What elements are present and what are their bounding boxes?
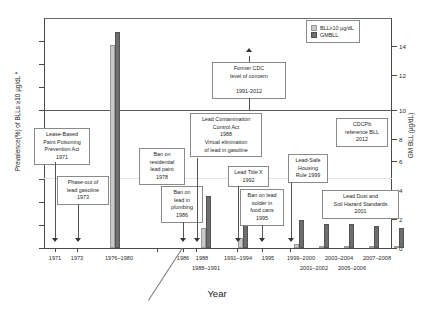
bar-dark-2005-2006 — [374, 226, 379, 248]
bar-dark-1999-2000 — [299, 220, 304, 248]
y-tick-right-14: 14 — [399, 44, 406, 50]
annotation-lead-contamination-control-act: Lead Contamination Control Act 1988 Virt… — [190, 113, 262, 157]
annotation-stem-1999 — [291, 182, 292, 240]
annotation-stem-cdc — [249, 56, 250, 62]
y-tick-right-8: 8 — [399, 137, 402, 143]
annotation-ban-residential-lead-paint: Ban on residential lead paint 1978 — [139, 148, 185, 185]
x-axis-line — [44, 248, 392, 249]
annotation-phase-out-lead-gasoline: Phase-out of lead gasoline 1973 — [57, 176, 109, 205]
annotation-lead-safe-housing-rule: Lead-Safe Housing Rule 1999 — [288, 154, 328, 183]
arrow-head-cdc-up-icon — [246, 48, 252, 52]
bar-dark-2007-2008 — [399, 228, 404, 248]
x-tick-label-2005-2006: 2005–2006 — [327, 266, 377, 272]
arrow-head-1995-icon — [259, 238, 265, 242]
arrow-head-1971-icon — [52, 238, 58, 242]
y-axis-left-title: Prevalence(%) of BLLs ≥10 µg/dL * — [14, 47, 21, 197]
bar-dark-2001-2002 — [324, 224, 329, 248]
annotation-ban-lead-solder-food-cans: Ban on lead solder in food cans 1995 — [240, 189, 284, 226]
legend-item-bll: BLL≥10 µg/dL — [311, 25, 354, 31]
y-tick-right-2: 2 — [399, 217, 402, 223]
y-tick-right-6: 6 — [399, 159, 402, 165]
annotation-lead-title-x: Lead Title X 1992 — [228, 166, 269, 187]
y-tick-right-4: 4 — [399, 188, 402, 194]
annotation-lead-dust-soil-hazard-standards: Lead Dust and Soil Hazard Standards 2001 — [322, 190, 399, 219]
legend: BLL≥10 µg/dL GMBLL — [306, 20, 360, 43]
annotation-former-cdc-level-of-concern: Former CDC level of concern 1991-2012 — [212, 62, 286, 99]
x-tick-label-1988: 1988 — [189, 256, 215, 262]
x-tick-label-2007-2008: 2007–2008 — [352, 256, 402, 262]
arrow-head-1986-icon — [180, 238, 186, 242]
x-tick-label-1988-1991: 1988–1991 — [181, 266, 231, 272]
legend-swatch-bll-icon — [311, 25, 317, 31]
arrow-head-1973-icon — [75, 238, 81, 242]
bar-dark-2003-2004 — [349, 224, 354, 248]
chart-figure: 0 10 20 30 40 50 60 70 80 90 0 2 4 6 8 1… — [0, 0, 434, 314]
y-axis-right-title: GM BLL (µg/dL) — [407, 81, 414, 191]
annotation-stem-1971 — [55, 162, 56, 240]
arrow-head-1988-icon — [194, 238, 200, 242]
x-axis-title: Year — [0, 288, 434, 299]
annotation-lease-based-paint: Lease-Based Paint Poisoning Prevention A… — [34, 128, 90, 165]
annotation-stem-1992 — [238, 186, 239, 240]
legend-label-gmbll: GMBLL — [320, 32, 338, 38]
y-tick-right-12: 12 — [399, 73, 406, 79]
x-tick-label-1973: 1973 — [64, 256, 90, 262]
legend-item-gmbll: GMBLL — [311, 32, 354, 38]
arrow-head-1999-icon — [288, 238, 294, 242]
x-tick-label-1976-1980: 1976–1980 — [94, 256, 144, 262]
annotation-stem-1988 — [197, 158, 198, 240]
bar-dark-1988-1991 — [206, 196, 211, 248]
legend-swatch-gmbll-icon — [311, 32, 317, 38]
arrow-head-1992-icon — [235, 238, 241, 242]
legend-label-bll: BLL≥10 µg/dL — [320, 25, 354, 31]
annotation-stem-cdc-down — [249, 98, 250, 110]
annotation-cdc-pb-reference-bll: CDCPb reference BLL 2012 — [336, 118, 388, 147]
bar-dark-1976-1980 — [115, 32, 120, 248]
annotation-stem-1973 — [78, 204, 79, 240]
y-tick-right-10: 10 — [399, 108, 406, 114]
